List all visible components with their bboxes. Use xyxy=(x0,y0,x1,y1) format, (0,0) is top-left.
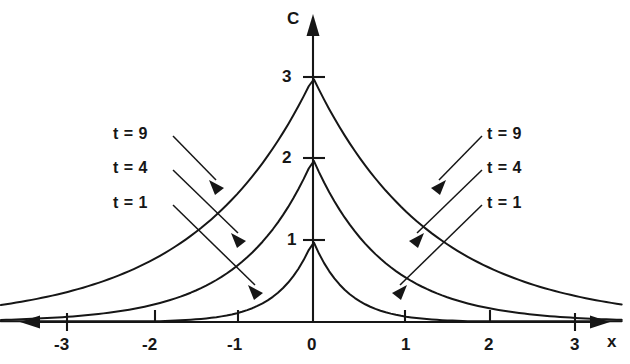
leader-right-t9 xyxy=(439,136,482,180)
y-axis-label: C xyxy=(287,10,299,27)
leader-left-t1-arrowhead xyxy=(248,285,263,300)
leader-left-t9 xyxy=(173,136,216,180)
x-tick-label-3: 3 xyxy=(570,336,579,353)
leader-right-t4-arrowhead xyxy=(409,233,424,248)
x-tick-label-0: 0 xyxy=(307,336,316,353)
series-label-right-t9: t = 9 xyxy=(487,126,522,142)
series-label-left-t4: t = 4 xyxy=(113,160,148,176)
series-label-left-t1: t = 1 xyxy=(113,195,148,211)
x-tick-label-neg2: -2 xyxy=(142,336,157,353)
x-tick-label-neg3: -3 xyxy=(54,336,69,353)
series-label-left-t9: t = 9 xyxy=(113,126,148,142)
curve-t9 xyxy=(1,79,622,305)
y-axis-arrowhead xyxy=(307,14,320,36)
series-label-right-t4: t = 4 xyxy=(487,160,522,176)
chart-canvas xyxy=(0,0,630,364)
x-tick-label-2: 2 xyxy=(484,336,493,353)
leader-right-t1-arrowhead xyxy=(392,285,407,300)
diffusion-concentration-chart: C x 3 2 1 -3 -2 -1 0 1 2 3 t = 9 t = 4 t… xyxy=(0,0,630,364)
curve-t1 xyxy=(1,243,622,322)
leader-left-t9-arrowhead xyxy=(209,180,224,195)
leader-right-t4 xyxy=(417,170,482,233)
series-label-right-t1: t = 1 xyxy=(487,195,522,211)
leader-left-t4-arrowhead xyxy=(231,233,246,248)
y-tick-label-1: 1 xyxy=(287,231,296,248)
x-tick-label-1: 1 xyxy=(401,336,410,353)
x-tick-label-neg1: -1 xyxy=(227,336,242,353)
y-tick-label-2: 2 xyxy=(282,149,291,166)
leader-right-t9-arrowhead xyxy=(431,180,446,195)
y-tick-label-3: 3 xyxy=(282,68,291,85)
x-axis-label: x xyxy=(607,333,616,350)
